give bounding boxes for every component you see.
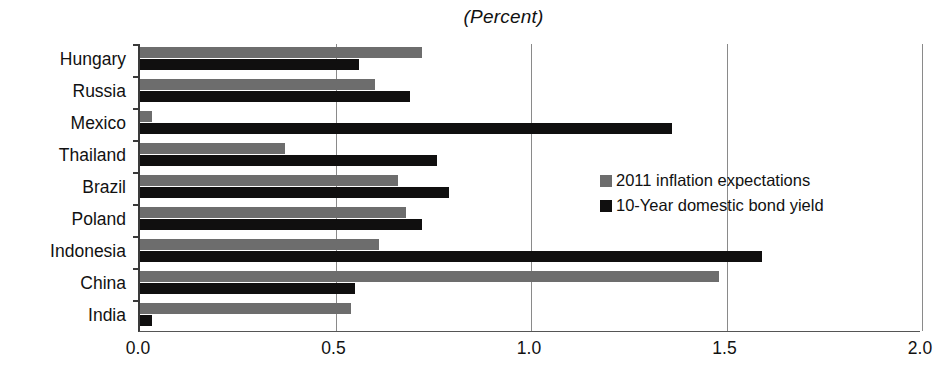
gridline	[922, 44, 923, 331]
y-axis-tick	[133, 204, 140, 206]
y-axis-tick	[133, 140, 140, 142]
y-axis-category-labels: HungaryRussiaMexicoThailandBrazilPolandI…	[0, 44, 132, 332]
y-axis-tick	[133, 236, 140, 238]
bar-row	[140, 108, 920, 140]
bar	[140, 187, 449, 198]
bar	[140, 143, 285, 154]
bar	[140, 123, 672, 134]
bar	[140, 79, 375, 90]
bar	[140, 47, 422, 58]
y-axis-tick	[133, 76, 140, 78]
bar	[140, 59, 359, 70]
x-axis-tick-labels: 0.00.51.01.52.0	[0, 338, 947, 368]
y-axis-label-hungary: Hungary	[0, 49, 126, 70]
chart-legend: 2011 inflation expectations10-Year domes…	[600, 168, 824, 218]
bar	[140, 155, 437, 166]
y-axis-label-mexico: Mexico	[0, 113, 126, 134]
chart-title: (Percent)	[0, 6, 947, 28]
y-axis-label-poland: Poland	[0, 209, 126, 230]
bar	[140, 271, 719, 282]
y-axis-label-india: India	[0, 305, 126, 326]
x-axis-tick-label: 2.0	[880, 338, 947, 359]
chart-figure: (Percent) HungaryRussiaMexicoThailandBra…	[0, 0, 947, 385]
bar-row	[140, 44, 920, 76]
bar	[140, 111, 152, 122]
bar	[140, 303, 351, 314]
legend-entry: 10-Year domestic bond yield	[600, 193, 824, 218]
legend-label: 10-Year domestic bond yield	[616, 193, 824, 218]
y-axis-label-brazil: Brazil	[0, 177, 126, 198]
bar-row	[140, 236, 920, 268]
bar-row	[140, 268, 920, 300]
bar	[140, 239, 379, 250]
bar	[140, 219, 422, 230]
y-axis-tick	[133, 300, 140, 302]
y-axis-tick	[133, 108, 140, 110]
legend-swatch-icon	[600, 175, 612, 187]
legend-entry: 2011 inflation expectations	[600, 168, 824, 193]
legend-label: 2011 inflation expectations	[616, 168, 810, 193]
bar	[140, 207, 406, 218]
x-axis-tick-label: 1.5	[685, 338, 765, 359]
y-axis-label-china: China	[0, 273, 126, 294]
bar-row	[140, 300, 920, 332]
y-axis-label-russia: Russia	[0, 81, 126, 102]
y-axis-tick	[133, 44, 140, 46]
y-axis-label-indonesia: Indonesia	[0, 241, 126, 262]
x-axis-tick-label: 0.0	[98, 338, 178, 359]
bar	[140, 175, 398, 186]
bar	[140, 251, 762, 262]
bar-row	[140, 76, 920, 108]
x-axis-tick-label: 1.0	[489, 338, 569, 359]
bar	[140, 315, 152, 326]
legend-swatch-icon	[600, 200, 612, 212]
x-axis-tick-label: 0.5	[294, 338, 374, 359]
bar	[140, 91, 410, 102]
y-axis-label-thailand: Thailand	[0, 145, 126, 166]
y-axis-tick	[133, 268, 140, 270]
y-axis-tick	[133, 172, 140, 174]
bar	[140, 283, 355, 294]
